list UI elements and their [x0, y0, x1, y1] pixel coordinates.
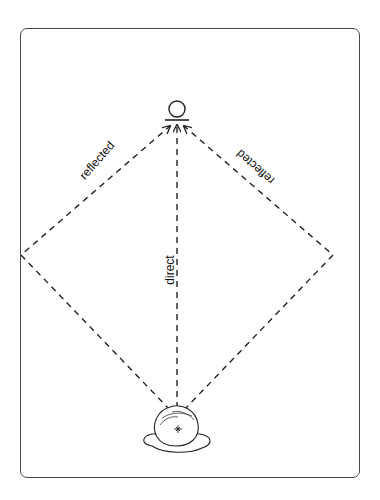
label-reflected-left: reflected — [77, 138, 118, 182]
label-reflected-right: reflected — [233, 147, 277, 188]
listener-head-icon — [144, 406, 210, 452]
microphone-icon — [165, 101, 189, 120]
sound-path-diagram: direct reflected reflected — [0, 0, 380, 500]
label-direct: direct — [163, 255, 177, 285]
